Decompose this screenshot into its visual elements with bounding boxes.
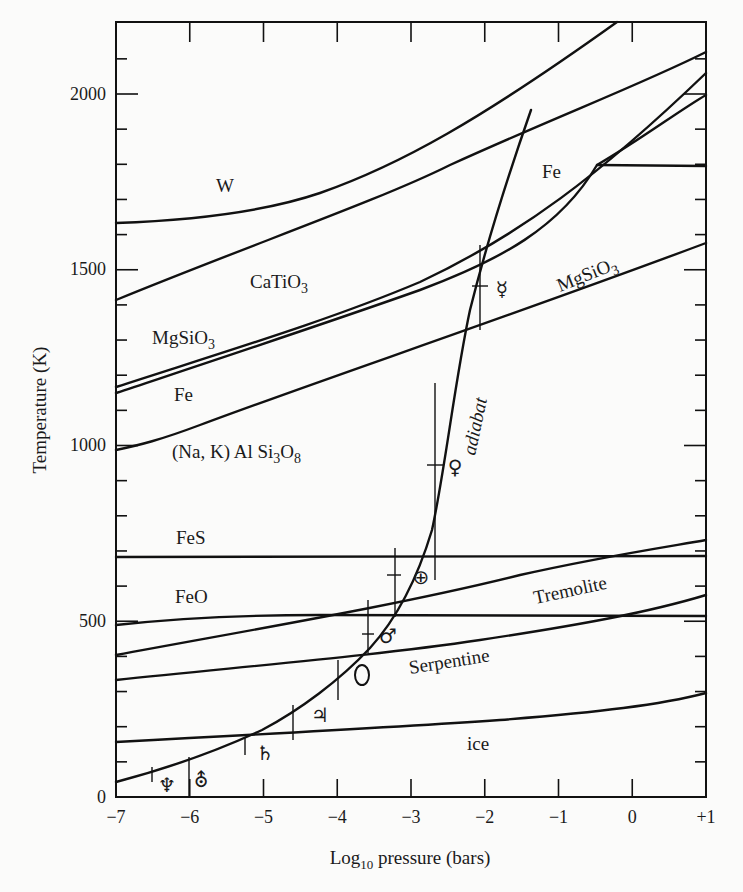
mars-icon: ♂: [379, 624, 397, 648]
y-tick-label: 1000: [70, 435, 106, 455]
x-tick-labels: −7 −6 −5 −4 −3 −2 −1 0 +1: [106, 807, 715, 827]
curve-CaTiO3: [116, 52, 706, 300]
uranus-icon: ⛢: [194, 768, 209, 792]
label-Tremolite: Tremolite: [531, 572, 608, 608]
condensation-chart: −7 −6 −5 −4 −3 −2 −1 0 +1 0 500 1000 150…: [0, 0, 743, 892]
label-FeO: FeO: [175, 586, 208, 607]
y-tick-label: 1500: [70, 259, 106, 279]
x-tick-label: −7: [106, 807, 125, 827]
label-MgSiO3-right: MgSiO3: [554, 253, 622, 300]
saturn-icon: ♄: [256, 741, 274, 765]
y-tick-label: 0: [97, 787, 106, 807]
planet-symbols: ☿ ♀ ⊕ ♂ ♃ ♄ ⛢ ♆: [158, 277, 508, 797]
x-tick-label: −3: [401, 807, 420, 827]
x-tick-label: −1: [549, 807, 568, 827]
label-CaTiO3: CaTiO3: [250, 271, 308, 296]
curve-Fe-horizontal: [597, 165, 706, 166]
x-tick-label: −2: [475, 807, 494, 827]
label-Serpentine: Serpentine: [407, 644, 491, 677]
region-labels: W Fe CaTiO3 MgSiO3 MgSiO3 Fe (Na, K) Al …: [152, 161, 621, 754]
label-adiabat: adiabat: [458, 395, 491, 457]
label-Fe-left: Fe: [174, 384, 193, 405]
x-axis-title: Log10 pressure (bars): [330, 847, 491, 872]
x-tick-label: −5: [254, 807, 273, 827]
x-tick-label: +1: [696, 807, 715, 827]
x-tick-label: 0: [628, 807, 637, 827]
label-ice: ice: [467, 733, 489, 754]
label-Fe-top: Fe: [542, 161, 561, 182]
mercury-icon: ☿: [496, 277, 508, 301]
label-W: W: [216, 175, 234, 196]
x-tick-label: −4: [328, 807, 347, 827]
asteroids-icon: [355, 665, 369, 685]
curve-ice: [116, 693, 706, 742]
venus-icon: ♀: [448, 455, 463, 479]
label-MgSiO3-left: MgSiO3: [152, 327, 215, 352]
curve-W: [116, 22, 617, 223]
neptune-icon: ♆: [158, 773, 176, 797]
x-axis-ticks: [190, 22, 633, 797]
y-axis-title: Temperature (K): [29, 347, 51, 474]
y-tick-label: 2000: [70, 84, 106, 104]
x-tick-label: −6: [180, 807, 199, 827]
label-NaK-AlSi3O8: (Na, K) Al Si3O8: [172, 441, 301, 466]
y-tick-label: 500: [79, 611, 106, 631]
jupiter-icon: ♃: [311, 703, 329, 727]
label-FeS: FeS: [176, 527, 206, 548]
plot-frame: [116, 22, 706, 797]
y-tick-labels: 0 500 1000 1500 2000: [70, 84, 106, 807]
earth-icon: ⊕: [413, 565, 430, 589]
